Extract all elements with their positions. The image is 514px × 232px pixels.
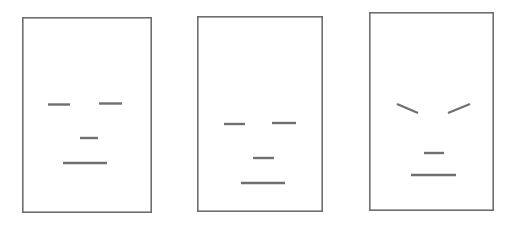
angry-face-right[interactable] bbox=[370, 13, 493, 210]
neutral-face-middle[interactable] bbox=[198, 17, 322, 211]
face-3-frame bbox=[370, 13, 493, 210]
stimulus-stage bbox=[0, 0, 514, 232]
neutral-face-left[interactable] bbox=[23, 18, 151, 212]
faces-canvas bbox=[0, 0, 514, 232]
face-1-frame bbox=[23, 18, 151, 212]
